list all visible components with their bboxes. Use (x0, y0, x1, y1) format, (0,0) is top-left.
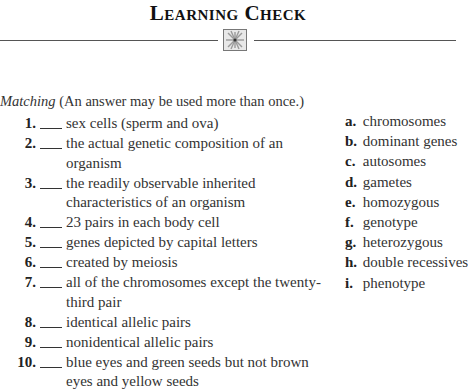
answer-text: chromosomes (363, 113, 446, 129)
question-text: the actual genetic composition of an org… (66, 135, 283, 171)
answer-blank[interactable] (40, 148, 62, 149)
question-number: 10. (0, 353, 36, 373)
question-number: 9. (0, 333, 36, 353)
answer-blank[interactable] (40, 327, 62, 328)
answer-letter: i. (345, 273, 359, 293)
question-item: 9. nonidentical allelic pairs (0, 333, 335, 353)
question-number: 4. (0, 213, 36, 233)
answer-choice: e. homozygous (345, 192, 456, 212)
question-text: the readily observable inherited charact… (66, 175, 256, 211)
question-text: blue eyes and green seeds but not brown … (66, 354, 309, 390)
instructions-note: (An answer may be used more than once.) (56, 93, 304, 109)
answer-choices: a. chromosomes b. dominant genes c. auto… (345, 111, 456, 293)
answer-blank[interactable] (40, 287, 62, 288)
question-item: 8. identical allelic pairs (0, 313, 335, 333)
answer-choice: a. chromosomes (345, 111, 456, 131)
answer-letter: d. (345, 172, 359, 192)
question-item: 2. the actual genetic composition of an … (0, 134, 335, 173)
answer-text: gametes (363, 174, 412, 190)
answer-blank[interactable] (40, 267, 62, 268)
question-item: 3. the readily observable inherited char… (0, 174, 335, 213)
matching-questions: 1. sex cells (sperm and ova) 2. the actu… (0, 114, 335, 392)
answer-letter: b. (345, 131, 359, 151)
question-text: identical allelic pairs (66, 314, 191, 330)
answer-blank[interactable] (40, 188, 62, 189)
answer-choice: g. heterozygous (345, 232, 456, 252)
answer-letter: f. (345, 212, 359, 232)
question-number: 7. (0, 273, 36, 293)
instructions: Matching (An answer may be used more tha… (0, 93, 304, 110)
question-text: sex cells (sperm and ova) (66, 115, 218, 131)
answer-text: double recessives (363, 254, 468, 270)
question-item: 5. genes depicted by capital letters (0, 233, 335, 253)
answer-choice: c. autosomes (345, 151, 456, 171)
answer-text: autosomes (363, 153, 426, 169)
header-rule-left (0, 40, 218, 41)
question-item: 1. sex cells (sperm and ova) (0, 114, 335, 134)
question-item: 4. 23 pairs in each body cell (0, 213, 335, 233)
answer-blank[interactable] (40, 128, 62, 129)
answer-choice: f. genotype (345, 212, 456, 232)
answer-letter: e. (345, 192, 359, 212)
answer-text: homozygous (363, 194, 440, 210)
question-number: 2. (0, 134, 36, 154)
answer-choice: d. gametes (345, 172, 456, 192)
answer-text: dominant genes (363, 133, 458, 149)
question-item: 6. created by meiosis (0, 253, 335, 273)
answer-choice: i. phenotype (345, 273, 456, 293)
answer-text: heterozygous (363, 234, 443, 250)
answer-blank[interactable] (40, 367, 62, 368)
question-number: 3. (0, 174, 36, 194)
answer-letter: g. (345, 232, 359, 252)
answer-text: genotype (363, 214, 418, 230)
question-item: 7. all of the chromosomes except the twe… (0, 273, 335, 312)
header-rule-right (254, 40, 456, 41)
question-number: 8. (0, 313, 36, 333)
question-text: nonidentical allelic pairs (66, 334, 213, 350)
question-number: 1. (0, 114, 36, 134)
answer-text: phenotype (363, 275, 425, 291)
answer-letter: c. (345, 151, 359, 171)
starburst-ornament-icon (223, 29, 247, 51)
answer-blank[interactable] (40, 347, 62, 348)
answer-blank[interactable] (40, 247, 62, 248)
question-text: all of the chromosomes except the twenty… (66, 274, 321, 310)
instructions-label: Matching (0, 93, 56, 109)
question-number: 5. (0, 233, 36, 253)
question-text: 23 pairs in each body cell (66, 214, 220, 230)
question-number: 6. (0, 253, 36, 273)
answer-blank[interactable] (40, 227, 62, 228)
question-item: 10. blue eyes and green seeds but not br… (0, 353, 335, 392)
answer-choice: h. double recessives (345, 252, 456, 272)
answer-choice: b. dominant genes (345, 131, 456, 151)
question-text: created by meiosis (66, 254, 178, 270)
answer-letter: h. (345, 252, 359, 272)
question-text: genes depicted by capital letters (66, 234, 258, 250)
page-title: Learning Check (0, 1, 456, 26)
answer-letter: a. (345, 111, 359, 131)
